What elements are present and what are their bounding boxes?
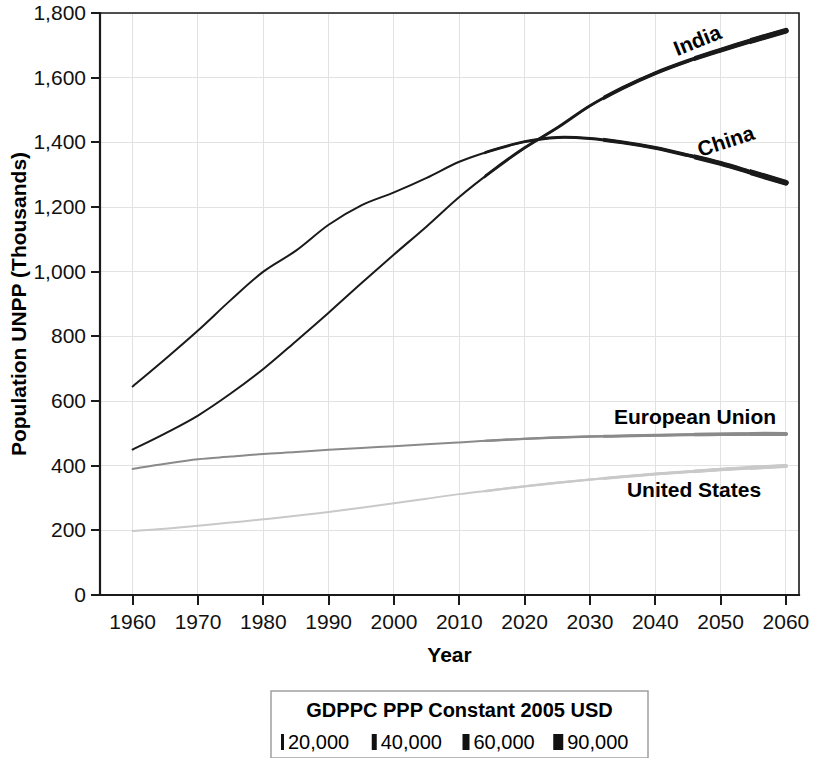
x-tick-label: 2000 — [371, 610, 418, 633]
y-axis-title: Population UNPP (Thousands) — [7, 152, 30, 456]
y-tick-label: 600 — [51, 389, 86, 412]
chart-legend: GDPPC PPP Constant 2005 USD20,00040,0006… — [271, 691, 648, 758]
x-tick-label: 2030 — [567, 610, 614, 633]
series-label-united-states: United States — [627, 478, 761, 501]
y-tick-label: 400 — [51, 454, 86, 477]
y-tick-label: 1,800 — [33, 1, 86, 24]
legend-label: 90,000 — [567, 731, 628, 753]
x-tick-label: 2050 — [697, 610, 744, 633]
y-tick-label: 1,000 — [33, 260, 86, 283]
y-tick-label: 0 — [74, 583, 86, 606]
legend-label: 60,000 — [474, 731, 535, 753]
x-tick-label: 1990 — [305, 610, 352, 633]
x-tick-label: 1970 — [175, 610, 222, 633]
x-tick-label: 2020 — [501, 610, 548, 633]
legend-marker — [463, 734, 470, 750]
plot-border — [100, 13, 799, 595]
series-label-china: China — [694, 121, 757, 161]
y-tick-label: 200 — [51, 518, 86, 541]
legend-marker — [553, 734, 563, 750]
chart-figure: 02004006008001,0001,2001,4001,6001,80019… — [0, 0, 819, 758]
x-axis-title: Year — [427, 643, 471, 666]
population-projection-line-chart: 02004006008001,0001,2001,4001,6001,80019… — [0, 0, 819, 758]
legend-marker — [372, 734, 377, 750]
legend-label: 40,000 — [381, 731, 442, 753]
y-tick-label: 1,400 — [33, 130, 86, 153]
plot-frame — [100, 13, 799, 595]
y-tick-label: 1,600 — [33, 66, 86, 89]
x-tick-label: 2060 — [763, 610, 810, 633]
legend-title: GDPPC PPP Constant 2005 USD — [306, 699, 612, 721]
y-tick-label: 1,200 — [33, 195, 86, 218]
legend-label: 20,000 — [288, 731, 349, 753]
x-tick-label: 2040 — [632, 610, 679, 633]
y-tick-label: 800 — [51, 324, 86, 347]
gridlines — [100, 13, 799, 595]
series-labels: IndiaChinaEuropean UnionUnited States — [614, 20, 776, 501]
axis-lines — [100, 13, 799, 595]
legend-marker — [281, 734, 284, 750]
x-tick-label: 2010 — [436, 610, 483, 633]
axis-tick-labels: 02004006008001,0001,2001,4001,6001,80019… — [33, 1, 809, 633]
x-tick-label: 1980 — [240, 610, 287, 633]
axis-ticks — [91, 13, 786, 605]
series-label-european-union: European Union — [614, 405, 776, 428]
x-tick-label: 1960 — [109, 610, 156, 633]
